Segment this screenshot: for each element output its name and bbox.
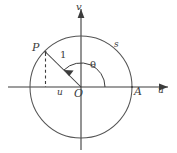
label-angle-theta: θ <box>90 60 96 70</box>
label-axis-u: u <box>158 86 164 95</box>
label-axis-v: v <box>76 2 82 12</box>
label-u-coordinate: u <box>57 88 63 97</box>
unit-circle-figure: P v s θ 1 u O A u <box>0 0 177 153</box>
label-radius-one: 1 <box>60 50 66 60</box>
point-A-marker <box>131 86 133 88</box>
label-arc-s: s <box>114 40 119 49</box>
angle-arc-arrowhead <box>64 70 74 76</box>
figure-canvas <box>0 0 177 153</box>
label-point-p: P <box>32 42 39 53</box>
point-P-marker <box>44 51 46 53</box>
v-axis <box>78 9 85 150</box>
u-axis <box>8 84 168 91</box>
angle-arc <box>64 63 105 87</box>
label-origin: O <box>74 88 83 99</box>
label-point-a: A <box>134 86 142 97</box>
